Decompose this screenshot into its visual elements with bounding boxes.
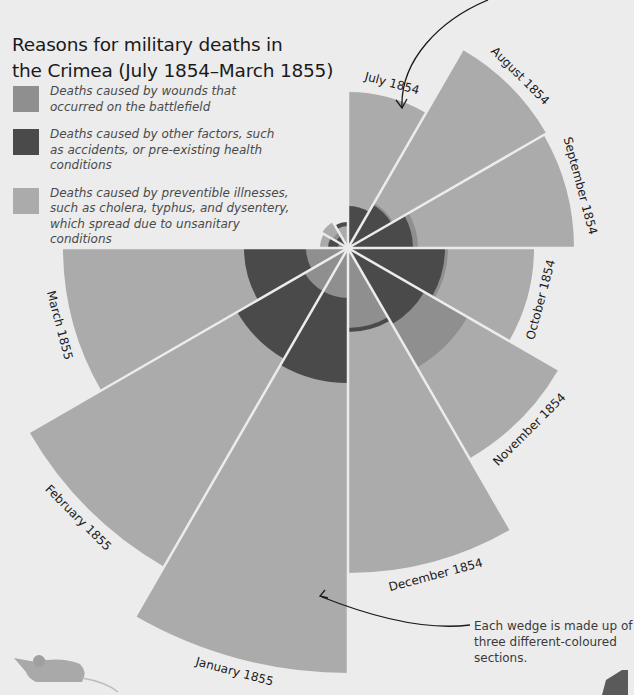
corner-decoration (602, 670, 628, 695)
wedge-group (29, 50, 574, 673)
month-label: July 1854 (362, 69, 421, 97)
mouse-icon (6, 648, 126, 693)
annotation-note: Each wedge is made up of three different… (474, 618, 634, 666)
